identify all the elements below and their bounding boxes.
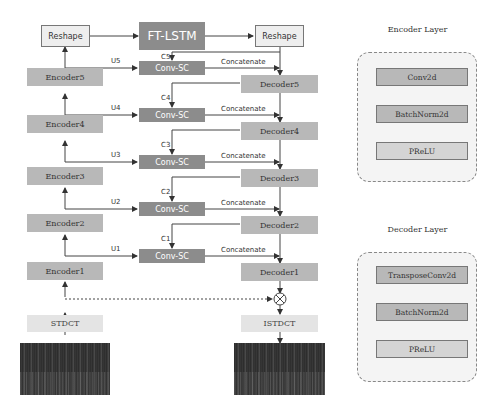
istdct-box: ISTDCT bbox=[241, 315, 318, 332]
decoder-transposeconv-label: TransposeConv2d bbox=[388, 271, 456, 280]
decoder1-label: Decoder1 bbox=[260, 268, 299, 277]
decoder4-box: Decoder4 bbox=[241, 122, 318, 140]
reshape-right-box: Reshape bbox=[255, 25, 304, 47]
reshape-left-label: Reshape bbox=[48, 32, 82, 41]
encoder4-box: Encoder4 bbox=[27, 115, 103, 133]
conv-sc-1-label: Conv-SC bbox=[155, 252, 189, 261]
conv-sc-4: Conv-SC bbox=[139, 108, 205, 122]
decoder5-box: Decoder5 bbox=[241, 75, 318, 93]
conv-sc-2-label: Conv-SC bbox=[155, 205, 189, 214]
ft-lstm-label: FT-LSTM bbox=[147, 29, 196, 43]
decoder-layer-title: Decoder Layer bbox=[360, 225, 475, 234]
encoder1-label: Encoder1 bbox=[45, 267, 84, 276]
u1-label: U1 bbox=[111, 245, 121, 253]
conv-sc-5-label: Conv-SC bbox=[155, 64, 189, 73]
encoder5-box: Encoder5 bbox=[27, 68, 103, 86]
encoder-conv2d-block: Conv2d bbox=[376, 68, 468, 86]
istdct-label: ISTDCT bbox=[264, 319, 296, 328]
decoder-batchnorm-block: BatchNorm2d bbox=[376, 303, 468, 321]
decoder-prelu-block: PReLU bbox=[376, 340, 468, 358]
decoder4-label: Decoder4 bbox=[260, 127, 299, 136]
decoder2-label: Decoder2 bbox=[260, 221, 299, 230]
encoder3-label: Encoder3 bbox=[45, 172, 84, 181]
ft-lstm-box: FT-LSTM bbox=[139, 22, 205, 50]
conv-sc-4-label: Conv-SC bbox=[155, 111, 189, 120]
encoder-prelu-block: PReLU bbox=[376, 142, 468, 160]
c1-label: C1 bbox=[161, 235, 170, 243]
encoder-batchnorm-block: BatchNorm2d bbox=[376, 105, 468, 123]
decoder-transposeconv-block: TransposeConv2d bbox=[376, 266, 468, 284]
u4-label: U4 bbox=[111, 104, 121, 112]
decoder2-box: Decoder2 bbox=[241, 216, 318, 234]
decoder-prelu-label: PReLU bbox=[409, 345, 435, 354]
decoder-batchnorm-label: BatchNorm2d bbox=[395, 308, 448, 317]
concat-label-2: Concatenate bbox=[221, 199, 266, 207]
concat-label-3: Concatenate bbox=[221, 152, 266, 160]
encoder-conv2d-label: Conv2d bbox=[408, 73, 437, 82]
reshape-right-label: Reshape bbox=[262, 32, 296, 41]
decoder-layer-panel: TransposeConv2d BatchNorm2d PReLU bbox=[357, 252, 477, 382]
encoder2-label: Encoder2 bbox=[45, 219, 84, 228]
encoder-layer-title: Encoder Layer bbox=[360, 25, 475, 34]
u2-label: U2 bbox=[111, 198, 121, 206]
stdct-label: STDCT bbox=[51, 319, 80, 328]
conv-sc-3: Conv-SC bbox=[139, 155, 205, 169]
concat-label-1: Concatenate bbox=[221, 246, 266, 254]
conv-sc-2: Conv-SC bbox=[139, 202, 205, 216]
decoder3-box: Decoder3 bbox=[241, 169, 318, 187]
encoder-prelu-label: PReLU bbox=[409, 147, 435, 156]
c2-label: C2 bbox=[161, 188, 170, 196]
encoder2-box: Encoder2 bbox=[27, 214, 103, 232]
encoder-layer-panel: Conv2d BatchNorm2d PReLU bbox=[357, 52, 477, 182]
decoder5-label: Decoder5 bbox=[260, 80, 299, 89]
encoder5-label: Encoder5 bbox=[45, 73, 84, 82]
c3-label: C3 bbox=[161, 141, 170, 149]
c5-label: C5 bbox=[161, 53, 170, 61]
decoder3-label: Decoder3 bbox=[260, 174, 299, 183]
c4-label: C4 bbox=[161, 94, 170, 102]
conv-sc-5: Conv-SC bbox=[139, 61, 205, 75]
u5-label: U5 bbox=[111, 57, 121, 65]
stdct-box: STDCT bbox=[27, 315, 103, 332]
concat-label-5: Concatenate bbox=[221, 58, 266, 66]
conv-sc-1: Conv-SC bbox=[139, 249, 205, 263]
reshape-left-box: Reshape bbox=[41, 25, 90, 47]
output-spectrogram bbox=[234, 343, 325, 395]
encoder1-box: Encoder1 bbox=[27, 262, 103, 280]
u3-label: U3 bbox=[111, 151, 121, 159]
conv-sc-3-label: Conv-SC bbox=[155, 158, 189, 167]
encoder4-label: Encoder4 bbox=[45, 120, 84, 129]
decoder1-box: Decoder1 bbox=[241, 263, 318, 281]
encoder3-box: Encoder3 bbox=[27, 167, 103, 185]
encoder-batchnorm-label: BatchNorm2d bbox=[395, 110, 448, 119]
input-spectrogram bbox=[20, 343, 110, 395]
concat-label-4: Concatenate bbox=[221, 105, 266, 113]
